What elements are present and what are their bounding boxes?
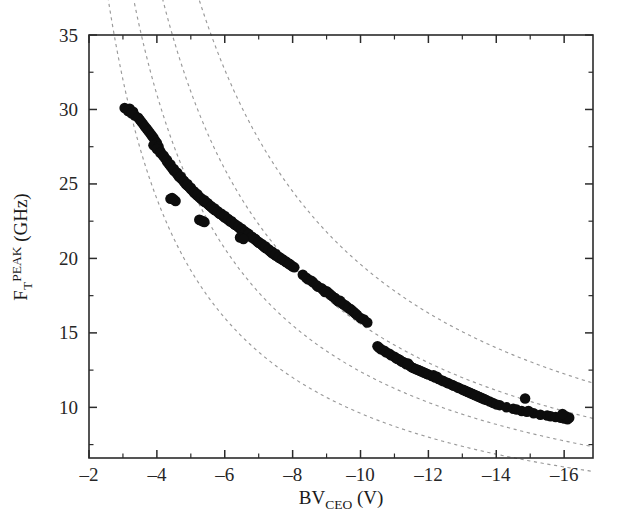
data-point <box>557 409 568 420</box>
y-axis-title-superscript: PEAK <box>9 246 24 282</box>
y-tick-label: 25 <box>59 173 78 194</box>
data-point <box>432 372 443 383</box>
y-tick-label: 30 <box>59 99 78 120</box>
x-tick-label: –10 <box>345 464 375 485</box>
plot-background <box>0 0 623 529</box>
x-axis-title-unit: (V) <box>352 487 383 509</box>
data-point <box>320 287 331 298</box>
y-axis-title-main: F <box>10 290 31 301</box>
data-point <box>523 406 534 417</box>
data-point <box>167 193 178 204</box>
x-tick-label: –16 <box>549 464 579 485</box>
data-point <box>199 217 210 228</box>
data-point <box>520 393 531 404</box>
x-tick-label: –4 <box>146 464 167 485</box>
y-tick-label: 35 <box>59 25 78 46</box>
y-tick-label: 10 <box>59 397 78 418</box>
scatter-plot: –2–4–6–8–10–12–14–16 101520253035 BVCEO … <box>0 0 623 529</box>
x-tick-label: –6 <box>214 464 234 485</box>
data-point <box>335 296 346 307</box>
data-point <box>238 234 249 245</box>
data-point <box>403 358 414 369</box>
data-point <box>362 317 373 328</box>
x-axis-title-subscript: CEO <box>325 497 352 512</box>
y-tick-label: 20 <box>59 248 78 269</box>
x-tick-label: –2 <box>79 464 99 485</box>
figure-container: –2–4–6–8–10–12–14–16 101520253035 BVCEO … <box>0 0 623 529</box>
data-point <box>289 262 300 273</box>
x-axis-title-main: BV <box>299 487 326 508</box>
y-tick-label: 15 <box>59 322 78 343</box>
x-tick-label: –12 <box>413 464 443 485</box>
y-axis-title-unit: (GHz) <box>10 193 32 246</box>
x-tick-label: –14 <box>481 464 511 485</box>
x-tick-label: –8 <box>282 464 302 485</box>
